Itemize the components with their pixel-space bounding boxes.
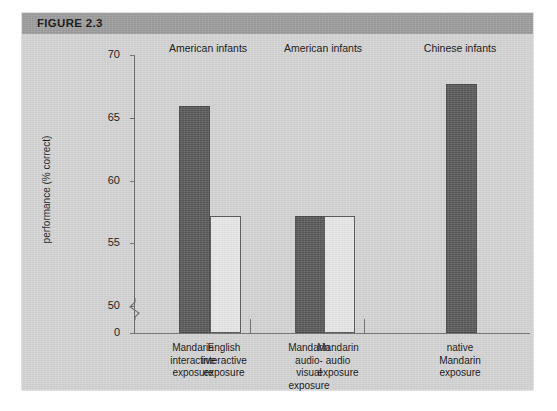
figure-header-band: FIGURE 2.3 [22,13,533,34]
bar-5 [446,84,477,333]
x-axis-tick-label-line: Mandarin [293,342,383,355]
x-axis-tick-label-line: native [415,342,505,355]
bars-layer [134,42,530,333]
bar-1 [179,106,210,333]
y-axis-tick-label: 60 [94,174,120,186]
x-axis-tick-label-line: exposure [293,367,383,380]
x-axis-tick-label-line: interactive [179,355,269,368]
x-axis-tick-label-line: exposure [264,380,354,393]
x-axis-line [134,333,530,334]
x-axis-tick-label: Englishinteractiveexposure [179,342,269,380]
x-axis-tick-label-line: exposure [415,367,505,380]
bar-4 [324,216,355,333]
x-axis-tick-label-line: Mandarin [415,355,505,368]
x-axis-tick-label-line: audio [293,355,383,368]
x-axis-tick-label: Mandarinaudioexposure [293,342,383,380]
figure-page: FIGURE 2.3 performance (% correct) 70656… [0,0,557,411]
figure-container: FIGURE 2.3 performance (% correct) 70656… [22,13,533,390]
x-axis-tick-label-line: English [179,342,269,355]
y-axis-tick-label: 0 [94,326,120,338]
y-axis-tick [130,333,135,334]
figure-number-label: FIGURE 2.3 [37,17,103,29]
bar-3 [295,216,326,333]
x-axis-tick-label: nativeMandarinexposure [415,342,505,380]
y-axis-title: performance (% correct) [41,110,52,270]
x-axis-tick-label-line: exposure [179,367,269,380]
y-axis-tick-label: 70 [94,48,120,60]
y-axis-tick-label: 55 [94,236,120,248]
bar-2 [210,216,241,333]
y-axis-tick-label: 65 [94,111,120,123]
chart-plot-area: performance (% correct) 70656055500 Mand… [22,34,533,390]
group-header-3: Chinese infants [390,42,530,54]
y-axis-tick-label: 50 [94,299,120,311]
group-header-2: American infants [253,42,393,54]
